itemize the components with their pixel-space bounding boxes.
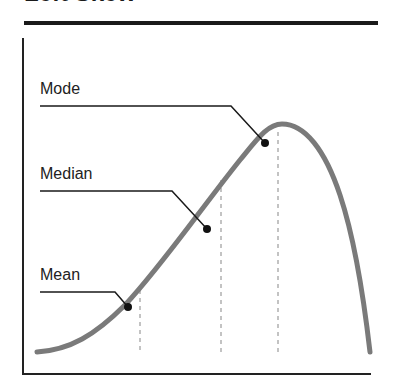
- mean-label: Mean: [40, 266, 80, 284]
- distribution-plot: [0, 0, 401, 378]
- mode-label: Mode: [40, 80, 80, 98]
- median-leader: [40, 191, 207, 229]
- mode-leader: [40, 106, 265, 143]
- mean-dot: [124, 303, 132, 311]
- mode-dot: [261, 139, 269, 147]
- median-label: Median: [40, 165, 92, 183]
- mean-leader: [40, 292, 128, 307]
- distribution-curve: [37, 124, 370, 352]
- median-dot: [203, 225, 211, 233]
